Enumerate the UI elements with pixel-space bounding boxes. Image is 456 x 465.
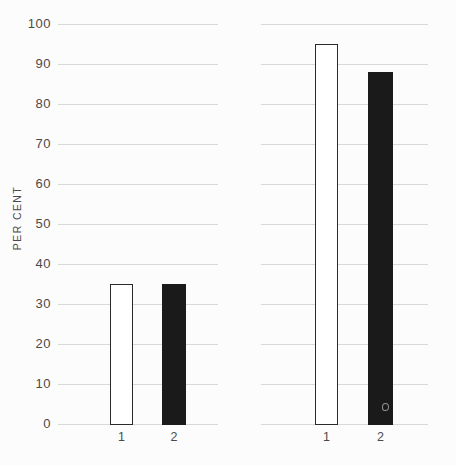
y-tick-label: 0 — [10, 416, 51, 432]
gridline — [58, 104, 218, 105]
bar-panel2-category2 — [368, 72, 393, 425]
gridline — [58, 344, 218, 345]
y-tick-label: 90 — [10, 56, 51, 72]
y-tick-label: 30 — [10, 296, 51, 312]
gridline — [58, 384, 218, 385]
gridline — [58, 24, 218, 25]
x-category-label: 2 — [159, 430, 189, 445]
y-tick-label: 100 — [10, 16, 51, 32]
x-category-label: 1 — [107, 430, 137, 445]
y-tick-label: 60 — [10, 176, 51, 192]
gridline — [261, 304, 428, 305]
y-tick-label: 80 — [10, 96, 51, 112]
bar-panel1-category2 — [162, 284, 186, 425]
print-artifact-speck — [382, 403, 389, 411]
y-tick-label: 50 — [10, 216, 51, 232]
gridline — [261, 384, 428, 385]
gridline — [261, 64, 428, 65]
gridline — [261, 104, 428, 105]
gridline — [58, 264, 218, 265]
gridline — [261, 424, 428, 425]
gridline — [261, 264, 428, 265]
y-tick-label: 20 — [10, 336, 51, 352]
bar-panel2-category1 — [315, 44, 338, 425]
gridline — [261, 184, 428, 185]
gridline — [58, 144, 218, 145]
gridline — [58, 424, 218, 425]
y-tick-label: 40 — [10, 256, 51, 272]
gridline — [58, 64, 218, 65]
gridline — [261, 24, 428, 25]
gridline — [261, 144, 428, 145]
x-category-label: 2 — [366, 430, 396, 445]
scanned-bar-chart-figure: PER CENT 1009080706050403020100 1212 — [0, 0, 456, 465]
y-tick-label: 10 — [10, 376, 51, 392]
x-category-label: 1 — [312, 430, 342, 445]
gridline — [58, 224, 218, 225]
bar-panel1-category1 — [110, 284, 133, 425]
y-tick-label: 70 — [10, 136, 51, 152]
gridline — [58, 184, 218, 185]
gridline — [261, 224, 428, 225]
gridline — [58, 304, 218, 305]
gridline — [261, 344, 428, 345]
